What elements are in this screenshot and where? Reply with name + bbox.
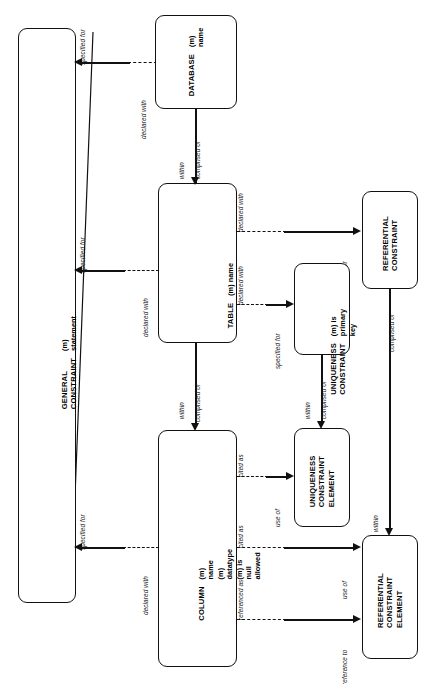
entity-attributes: (m) name <box>187 28 206 47</box>
label-use-of-uce: use of <box>274 509 281 527</box>
crowsfoot-table-column <box>191 423 199 431</box>
label-declared-with-rc: declared with <box>237 193 244 232</box>
crowsfoot-table-rc <box>353 227 361 235</box>
crowsfoot-db-table <box>191 177 199 185</box>
entity-attributes: (m) is primary key <box>329 309 357 336</box>
entity-database[interactable]: DATABASE (m) name <box>155 15 237 109</box>
connector-column-gc-solid <box>82 547 125 549</box>
label-declared-with-database: declared with <box>140 100 147 139</box>
crowsfoot-rc-rce <box>385 528 393 536</box>
entity-name: REFERENTIAL CONSTRAINT ELEMENT <box>376 573 404 628</box>
entity-attributes: (m) name <box>225 263 234 296</box>
entity-attributes: (m) statement <box>60 316 79 351</box>
connector-table-rc-dashed <box>237 231 286 232</box>
label-cited-as-rce: cited as <box>237 525 244 548</box>
connector-table-gc-dashed <box>123 270 159 271</box>
label-use-of-rce: use of <box>341 581 348 599</box>
crowsfoot-column-rce-b <box>353 615 361 623</box>
label-comprised-of-table-column: comprised of <box>194 384 201 422</box>
entity-name: REFERENTIAL CONSTRAINT <box>381 216 400 271</box>
connector-column-rce-a-solid <box>284 547 354 549</box>
label-within-db-table: within <box>178 162 185 179</box>
label-declared-with-column: declared with <box>142 576 149 615</box>
entity-name: DATABASE <box>187 54 196 96</box>
er-diagram-canvas: GENERAL CONSTRAINT (m) statement DATABAS… <box>0 0 425 684</box>
connector-db-gc-solid <box>82 62 130 64</box>
entity-column[interactable]: COLUMN (m) name (m) datatype (m) is null… <box>158 430 237 667</box>
crowsfoot-column-gc <box>74 543 82 551</box>
entity-name: TABLE <box>225 303 234 329</box>
label-comprised-of-db-table: comprised of <box>194 141 201 179</box>
connector-table-uc-solid <box>266 304 287 306</box>
label-declared-with-table: declared with <box>142 298 149 337</box>
label-specified-for-uc: specified for <box>274 333 281 369</box>
label-cited-as-uce: cited as <box>237 454 244 477</box>
entity-referential-constraint[interactable]: REFERENTIAL CONSTRAINT <box>362 191 418 289</box>
entity-uniqueness-constraint[interactable]: UNIQUENESS CONSTRAINT (m) is primary key <box>294 263 350 355</box>
connector-column-rce-a-dashed <box>237 547 286 548</box>
label-comprised-of-uc: comprised of <box>320 381 327 419</box>
entity-table[interactable]: TABLE (m) name <box>158 183 237 343</box>
entity-name: COLUMN <box>197 586 206 620</box>
label-within-rce: within <box>372 515 379 532</box>
entity-name: GENERAL CONSTRAINT <box>60 357 79 408</box>
crowsfoot-column-uce <box>286 472 294 480</box>
entity-name: UNIQUENESS CONSTRAINT ELEMENT <box>308 455 336 507</box>
label-comprised-of-rc: comprised of <box>388 314 395 352</box>
label-reference-to-rce: reference to <box>341 650 348 684</box>
label-within-uce: within <box>304 402 311 419</box>
entity-attributes: (m) name (m) datatype (m) is null allowe… <box>197 549 263 579</box>
entity-uniqueness-constraint-element[interactable]: UNIQUENESS CONSTRAINT ELEMENT <box>294 428 350 527</box>
crowsfoot-uc-uce <box>317 421 325 429</box>
entity-general-constraint[interactable]: GENERAL CONSTRAINT (m) statement <box>18 28 76 603</box>
crowsfoot-column-rce-a <box>353 543 361 551</box>
entity-referential-constraint-element[interactable]: REFERENTIAL CONSTRAINT ELEMENT <box>362 535 418 659</box>
connector-table-rc-solid <box>284 231 354 233</box>
label-declared-with-uc: declared with <box>237 266 244 305</box>
entity-name: UNIQUENESS CONSTRAINT <box>329 343 348 395</box>
connector-column-gc-dashed <box>123 547 159 548</box>
connector-db-gc-dashed <box>128 62 157 63</box>
crowsfoot-db-gc <box>74 58 82 66</box>
connector-column-uce-solid <box>266 476 287 478</box>
connector-table-gc-solid <box>82 270 125 272</box>
crowsfoot-table-uc <box>286 300 294 308</box>
crowsfoot-table-gc <box>74 266 82 274</box>
label-within-table-column: within <box>178 402 185 419</box>
connector-column-rce-b-solid <box>284 619 354 621</box>
